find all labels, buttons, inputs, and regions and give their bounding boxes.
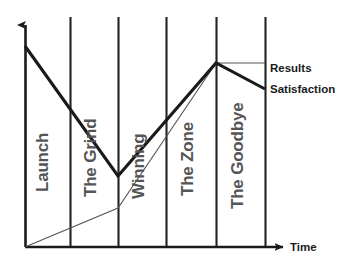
phase-label-winning: Winning	[129, 134, 148, 199]
x-axis-label-group: Time	[290, 241, 317, 253]
x-axis-label: Time	[290, 241, 317, 253]
series-labels-group: Results Satisfaction	[270, 62, 335, 95]
phase-label-the-zone: The Zone	[178, 122, 197, 196]
phase-labels-group: Launch The Grind Winning The Zone The Go…	[33, 103, 247, 209]
chart-svg: Launch The Grind Winning The Zone The Go…	[0, 0, 347, 274]
series-label-satisfaction: Satisfaction	[270, 83, 335, 95]
diagram-canvas: Launch The Grind Winning The Zone The Go…	[0, 0, 347, 274]
phase-label-the-grind: The Grind	[81, 119, 100, 197]
phase-label-launch: Launch	[33, 133, 52, 192]
series-label-results: Results	[270, 62, 312, 74]
phase-label-the-goodbye: The Goodbye	[228, 103, 247, 209]
